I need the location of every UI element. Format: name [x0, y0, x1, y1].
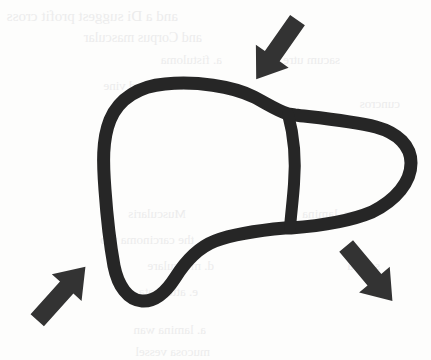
liver-diagram-svg	[0, 0, 431, 360]
lobe-divider	[288, 114, 295, 228]
liver-figure: and a Di suggest profit crossand Corpus …	[0, 0, 431, 360]
arrow-bottom-right-shape	[331, 233, 408, 314]
arrow-bottom-right	[331, 233, 408, 314]
arrow-bottom-left	[22, 253, 100, 333]
lobe-divider-group	[288, 114, 295, 228]
arrow-bottom-left-shape	[22, 253, 100, 333]
arrow-top-right-shape	[240, 9, 314, 91]
arrow-top-right	[240, 9, 314, 91]
